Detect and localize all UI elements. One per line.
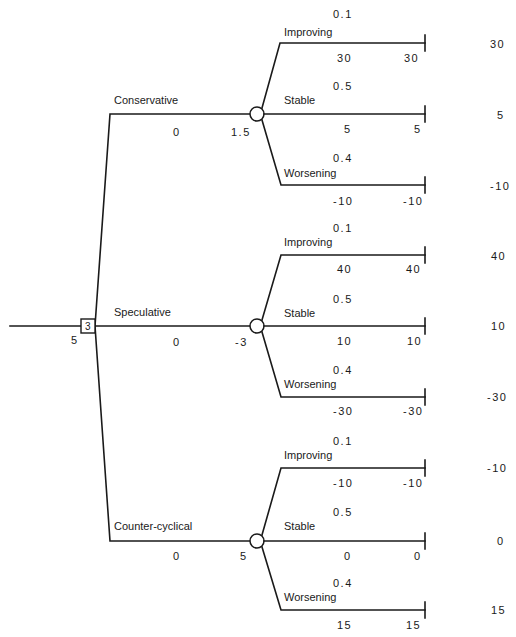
alternative-expected-value: 5 bbox=[240, 550, 248, 562]
outcome-probability: 0.4 bbox=[333, 577, 353, 589]
chance-node[interactable] bbox=[250, 534, 264, 548]
outcome-state: Stable bbox=[284, 94, 315, 106]
outcome-probability: 0.4 bbox=[333, 364, 353, 376]
outcome-probability: 0.4 bbox=[333, 152, 353, 164]
alternative-cost: 0 bbox=[173, 550, 181, 562]
outcome-cumulative: 5 bbox=[414, 123, 422, 135]
outcome-state: Worsening bbox=[284, 167, 336, 179]
terminal-value: 10 bbox=[491, 320, 506, 332]
alternative-branch[interactable] bbox=[95, 326, 250, 541]
alternative-expected-value: -3 bbox=[235, 336, 248, 348]
alternative-cost: 0 bbox=[173, 336, 181, 348]
outcome-state: Worsening bbox=[284, 591, 336, 603]
alternative-expected-value: 1.5 bbox=[231, 126, 251, 138]
outcome-payoff: 5 bbox=[344, 123, 352, 135]
outcome-probability: 0.5 bbox=[333, 293, 353, 305]
outcome-payoff: -30 bbox=[333, 405, 353, 417]
outcome-cumulative: 0 bbox=[414, 550, 422, 562]
chance-node[interactable] bbox=[250, 107, 264, 121]
alternative-name: Conservative bbox=[114, 94, 178, 106]
outcome-state: Improving bbox=[284, 449, 332, 461]
outcome-cumulative: -10 bbox=[403, 195, 423, 207]
outcome-payoff: 15 bbox=[337, 619, 352, 631]
outcome-payoff: -10 bbox=[333, 477, 353, 489]
outcome-probability: 0.5 bbox=[333, 506, 353, 518]
alternative-conservative[interactable]: Conservative 0 1.5 0.1 Improving 30 30 3… bbox=[95, 8, 510, 326]
outcome-payoff: 40 bbox=[337, 263, 352, 275]
outcome-cumulative: 30 bbox=[404, 52, 419, 64]
alternative-name: Counter-cyclical bbox=[114, 520, 192, 532]
outcome-payoff: 0 bbox=[344, 550, 352, 562]
outcome-payoff: 10 bbox=[337, 335, 352, 347]
outcome-state: Improving bbox=[284, 236, 332, 248]
outcome-payoff: -10 bbox=[333, 195, 353, 207]
outcome-state: Stable bbox=[284, 520, 315, 532]
outcome-state: Worsening bbox=[284, 378, 336, 390]
outcome-cumulative: -30 bbox=[403, 405, 423, 417]
alternative-cost: 0 bbox=[173, 126, 181, 138]
outcome-probability: 0.5 bbox=[333, 80, 353, 92]
terminal-value: -30 bbox=[487, 391, 507, 403]
outcome-cumulative: 10 bbox=[407, 335, 422, 347]
outcome-probability: 0.1 bbox=[333, 222, 353, 234]
terminal-value: 15 bbox=[491, 604, 506, 616]
decision-node[interactable]: 3 bbox=[81, 319, 95, 333]
outcome-payoff: 30 bbox=[337, 52, 352, 64]
terminal-value: -10 bbox=[490, 180, 510, 192]
alternative-counter-cyclical[interactable]: Counter-cyclical 0 5 0.1 Improving -10 -… bbox=[95, 326, 507, 631]
outcome-probability: 0.1 bbox=[333, 8, 353, 20]
outcome-cumulative: 15 bbox=[406, 619, 421, 631]
terminal-value: 40 bbox=[491, 250, 506, 262]
terminal-value: 0 bbox=[497, 535, 505, 547]
terminal-value: -10 bbox=[487, 462, 507, 474]
terminal-value: 30 bbox=[490, 38, 505, 50]
terminal-value: 5 bbox=[497, 109, 505, 121]
outcome-cumulative: -10 bbox=[403, 477, 423, 489]
outcome-probability: 0.1 bbox=[333, 435, 353, 447]
chance-node[interactable] bbox=[250, 319, 264, 333]
decision-value: 5 bbox=[71, 334, 79, 346]
outcome-state: Stable bbox=[284, 307, 315, 319]
outcome-cumulative: 40 bbox=[406, 263, 421, 275]
alternative-branch[interactable] bbox=[95, 114, 250, 326]
decision-tree: 5 Conservative 0 1.5 0.1 Improving 30 30… bbox=[0, 0, 516, 637]
alternative-name: Speculative bbox=[114, 306, 171, 318]
alternative-speculative[interactable]: Speculative 0 -3 0.1 Improving 40 40 40 … bbox=[95, 222, 507, 417]
decision-node-label: 3 bbox=[85, 321, 91, 332]
outcome-state: Improving bbox=[284, 26, 332, 38]
